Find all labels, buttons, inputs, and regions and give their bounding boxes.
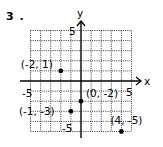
- point-marker: [79, 99, 84, 104]
- x-axis-label: x: [144, 75, 150, 87]
- point-marker: [58, 69, 63, 74]
- y-tick-pos5: 5: [69, 25, 76, 37]
- point-label: (-2, 1): [21, 58, 53, 70]
- y-axis: [77, 21, 85, 138]
- point-label: (0, -2): [86, 87, 118, 99]
- x-tick-pos5: 5: [126, 86, 133, 98]
- point-marker: [119, 129, 124, 134]
- coordinate-plane: x y -5 5 5 -5 (-2, 1)(0, -2)(-1, -3)(4, …: [0, 0, 163, 147]
- point-label: (4, -5): [110, 114, 142, 126]
- point-label: (-1, -3): [19, 105, 55, 117]
- point-marker: [69, 109, 74, 114]
- y-tick-neg5: -5: [62, 122, 72, 134]
- y-axis-label: y: [77, 7, 83, 19]
- x-tick-neg5: -5: [22, 87, 32, 99]
